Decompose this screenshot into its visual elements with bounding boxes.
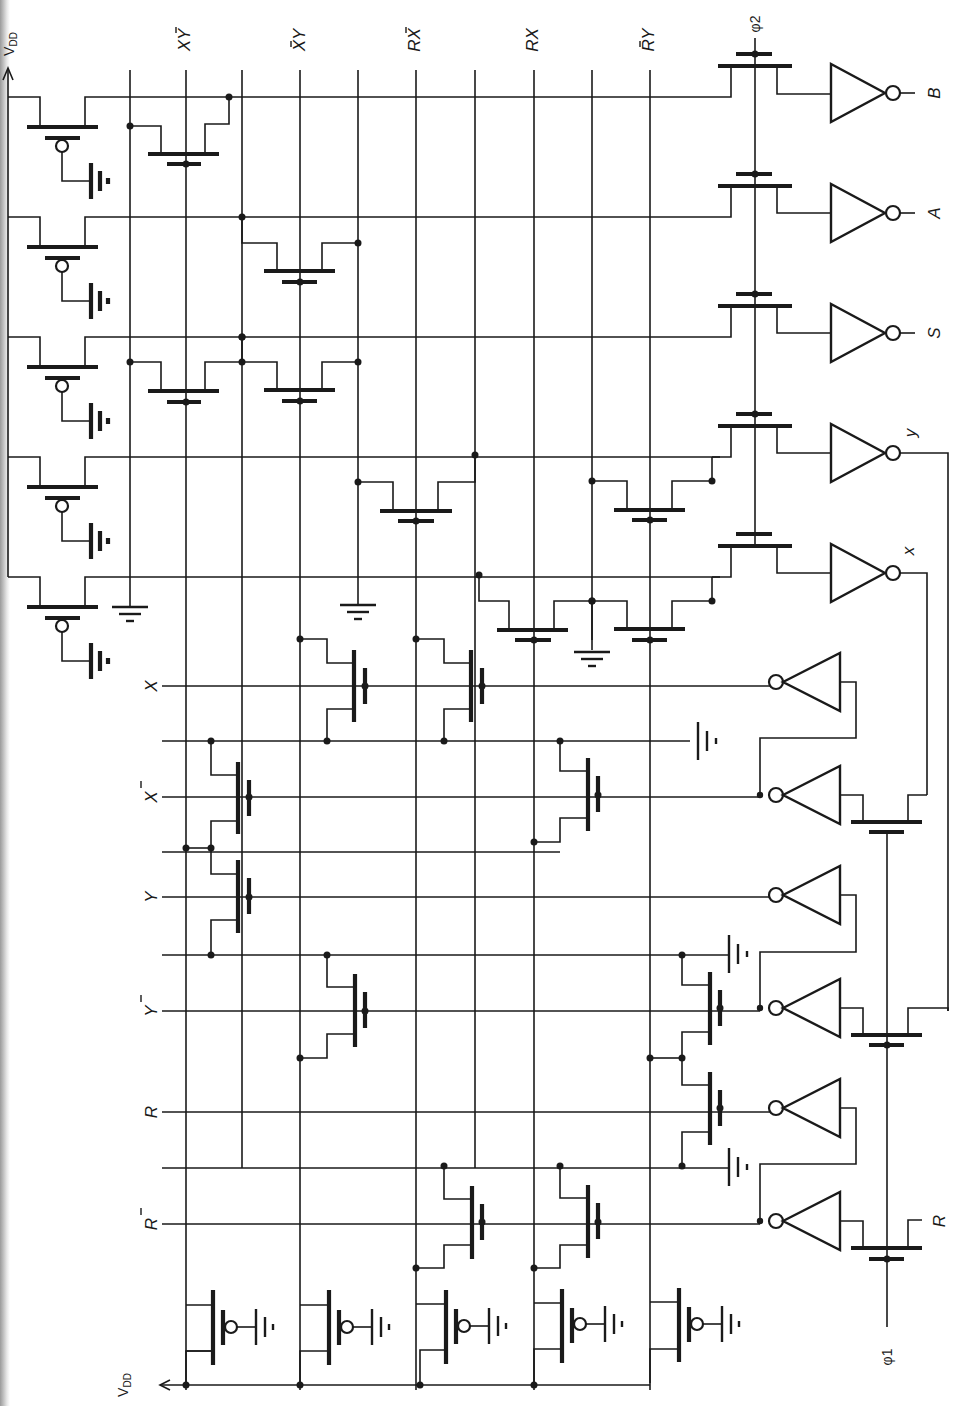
- junction-dots: [239, 334, 596, 605]
- ground-icon: [574, 652, 610, 666]
- pmos-load: [531, 1289, 623, 1389]
- vdd-top-terminal: VDD: [1, 32, 19, 577]
- input-label-rbar: R: [142, 1218, 161, 1230]
- column-labels: XY XY RX RX RY: [175, 27, 658, 52]
- battery-icon: [729, 935, 747, 973]
- input-inverters: [757, 653, 863, 1250]
- circuit-schematic: VDD XY XY RX RX RY: [0, 0, 974, 1406]
- ground-icon: [112, 590, 148, 621]
- output-stage: B A S y x: [712, 51, 948, 1012]
- phi1-label: φ1: [879, 1348, 895, 1365]
- input-label-ybar: Y: [142, 1004, 161, 1017]
- pmos-load: [416, 1290, 506, 1389]
- output-label-b: B: [925, 87, 944, 98]
- input-label-xbar: X: [142, 791, 161, 804]
- column-label-xbary: XY: [290, 27, 309, 52]
- and-plane-nmos: [183, 636, 724, 1272]
- column-label-rbary: RY: [639, 27, 658, 52]
- phi2-label: φ2: [747, 15, 763, 32]
- input-label-y: Y: [142, 890, 161, 903]
- output-label-x: x: [899, 546, 918, 556]
- phi2-clock-line: φ2: [747, 15, 763, 545]
- vdd-top-label: VDD: [1, 32, 19, 56]
- phi1-pass-transistors: R: [851, 795, 949, 1263]
- output-label-y: y: [901, 427, 920, 438]
- phi1-clock-line: φ1: [879, 832, 895, 1365]
- column-label-rx: RX: [523, 28, 542, 52]
- input-label-x: X: [142, 680, 161, 693]
- bottom-pmos-loads: VDD: [115, 1288, 739, 1397]
- battery-icon: [729, 1148, 747, 1186]
- or-plane-nmos: [127, 94, 716, 651]
- pmos-load: [297, 1290, 390, 1389]
- input-rows: X X Y Y R R: [141, 680, 773, 1230]
- input-label-r: R: [142, 1106, 161, 1118]
- vdd-bottom-label: VDD: [115, 1373, 133, 1397]
- top-pmos-loads: [8, 97, 720, 679]
- pmos-load: [183, 1290, 274, 1389]
- external-input-r-label: R: [930, 1215, 949, 1227]
- ground-icon: [340, 590, 376, 619]
- pmos-load: [650, 1288, 739, 1383]
- column-label-xybar: XY: [175, 27, 194, 52]
- output-label-s: S: [925, 327, 944, 339]
- column-label-rxbar: RX: [405, 28, 424, 52]
- battery-icon: [698, 722, 716, 760]
- column-lines: [130, 70, 650, 1390]
- output-label-a: A: [925, 207, 944, 219]
- bias-symbols: [698, 722, 747, 1186]
